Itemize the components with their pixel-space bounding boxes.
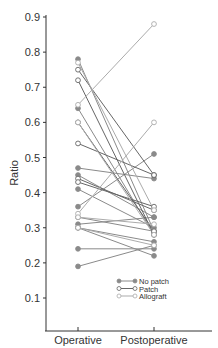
legend-marker — [117, 287, 121, 291]
data-point — [76, 120, 81, 125]
data-point — [76, 60, 81, 65]
data-point — [76, 102, 81, 107]
data-point — [76, 78, 81, 83]
legend-marker — [117, 294, 121, 298]
series-line — [78, 24, 154, 105]
data-point — [152, 215, 157, 220]
y-tick-label: 0.3 — [25, 222, 40, 234]
data-point — [76, 246, 81, 251]
x-ticks: OperativePostoperative — [54, 327, 187, 346]
data-point — [152, 222, 157, 227]
y-tick-label: 0.8 — [25, 46, 40, 58]
y-tick-label: 0.9 — [25, 11, 40, 23]
x-tick-label: Operative — [54, 334, 102, 346]
y-tick-label: 0.4 — [25, 187, 40, 199]
y-tick-label: 0.5 — [25, 152, 40, 164]
series-line — [78, 154, 154, 207]
data-point — [76, 187, 81, 192]
series-line — [78, 228, 154, 246]
data-point — [76, 204, 81, 209]
y-ticks: 0.10.20.30.40.50.60.70.80.9 — [25, 11, 46, 304]
series-lines — [78, 24, 154, 266]
data-point — [152, 243, 157, 248]
data-point — [76, 67, 81, 72]
legend: No patchPatchAllograft — [117, 277, 169, 301]
data-point — [76, 225, 81, 230]
series-line — [78, 80, 154, 235]
y-tick-label: 0.7 — [25, 81, 40, 93]
data-point — [76, 180, 81, 185]
y-tick-label: 0.6 — [25, 116, 40, 128]
data-point — [76, 264, 81, 269]
legend-marker — [133, 287, 137, 291]
y-axis-label: Ratio — [8, 160, 20, 186]
data-point — [76, 141, 81, 146]
legend-marker — [133, 279, 137, 283]
data-point — [152, 22, 157, 27]
legend-marker — [133, 294, 137, 298]
legend-marker — [117, 279, 121, 283]
data-point — [152, 152, 157, 157]
series-line — [78, 217, 154, 231]
legend-label: Allograft — [139, 292, 167, 301]
data-point — [152, 253, 157, 258]
data-point — [152, 173, 157, 178]
y-tick-label: 0.1 — [25, 292, 40, 304]
series-line — [78, 228, 154, 256]
data-point — [152, 232, 157, 237]
y-tick-label: 0.2 — [25, 257, 40, 269]
series-line — [78, 228, 154, 242]
chart: 0.10.20.30.40.50.60.70.80.9 OperativePos… — [0, 0, 218, 348]
x-tick-label: Postoperative — [120, 334, 187, 346]
series-line — [78, 108, 154, 234]
data-point — [76, 166, 81, 171]
data-point — [76, 215, 81, 220]
data-point — [152, 208, 157, 213]
data-point — [152, 120, 157, 125]
